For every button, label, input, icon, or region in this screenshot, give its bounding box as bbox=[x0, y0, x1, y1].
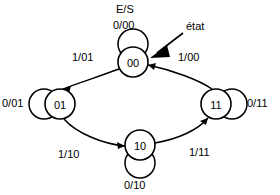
etat-annotation-label: état bbox=[186, 21, 204, 32]
transition-11-to-00 bbox=[148, 63, 212, 89]
transition-label-10-11: 1/11 bbox=[189, 147, 210, 158]
transition-label-00-01: 1/01 bbox=[72, 52, 93, 63]
self-loop-label-10: 0/10 bbox=[124, 180, 145, 191]
transition-label-01-10: 1/10 bbox=[58, 149, 79, 160]
self-loop-label-00: 0/00 bbox=[113, 20, 134, 31]
state-node-10[interactable]: 10 bbox=[125, 130, 155, 160]
state-label-10: 10 bbox=[134, 140, 146, 152]
transition-01-to-10 bbox=[64, 119, 125, 149]
transition-10-to-11 bbox=[155, 118, 208, 143]
state-node-00[interactable]: 00 bbox=[118, 47, 148, 77]
self-loop-label-11: 0/11 bbox=[247, 98, 268, 109]
state-node-11[interactable]: 11 bbox=[201, 89, 231, 119]
state-diagram-figure: 00 01 11 10 E/S 0/00 état 1/01 1/00 0/01… bbox=[0, 0, 280, 195]
input-output-legend: E/S bbox=[116, 4, 134, 15]
state-machine-graph: 00 01 11 10 bbox=[0, 0, 280, 195]
transition-label-11-00: 1/00 bbox=[178, 52, 199, 63]
state-label-01: 01 bbox=[54, 99, 66, 111]
self-loop-label-01: 0/01 bbox=[2, 98, 23, 109]
transition-00-to-01 bbox=[63, 69, 119, 93]
state-label-11: 11 bbox=[210, 99, 221, 111]
state-node-01[interactable]: 01 bbox=[45, 89, 75, 119]
state-label-00: 00 bbox=[127, 57, 139, 69]
